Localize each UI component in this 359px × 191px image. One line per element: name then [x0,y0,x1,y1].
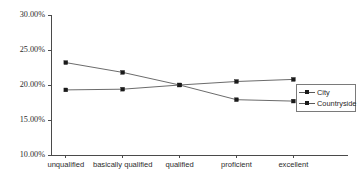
data-point-marker [178,83,182,87]
chart-legend: City Countryside [296,84,356,112]
legend-item-city: City [299,87,352,98]
series-line-countryside [66,63,294,102]
y-axis-tick-label: 10.00% [20,150,45,159]
data-point-marker [235,98,239,102]
legend-item-countryside: Countryside [299,98,352,109]
y-axis-labels: 30.00%25.00%20.00%15.00%10.00% [20,10,45,159]
x-axis-tick-label: proficient [221,160,253,169]
y-axis-tick-label: 25.00% [20,45,45,54]
x-axis-tick-label: excellent [278,160,309,169]
data-point-marker [64,61,68,65]
y-axis-tick-label: 20.00% [20,80,45,89]
x-axis-labels: unqualifiedbasically qualifiedqualifiedp… [47,160,309,169]
legend-marker-icon [299,99,315,108]
legend-item-label: Countryside [317,98,356,109]
data-point-marker [64,88,68,92]
data-point-marker [291,99,295,103]
line-chart: 30.00%25.00%20.00%15.00%10.00% unqualifi… [0,0,359,191]
x-axis-tick-label: unqualified [47,160,84,169]
legend-item-label: City [317,87,330,98]
data-series-layer [64,61,295,103]
y-axis-tick-label: 30.00% [20,10,45,19]
x-axis-tick-label: qualified [165,160,193,169]
data-point-marker [291,78,295,82]
data-point-marker [121,87,125,91]
y-axis-tick-label: 15.00% [20,115,45,124]
data-point-marker [235,80,239,84]
x-axis-tick-label: basically qualified [93,160,153,169]
legend-marker-icon [299,88,315,97]
data-point-marker [121,71,125,75]
